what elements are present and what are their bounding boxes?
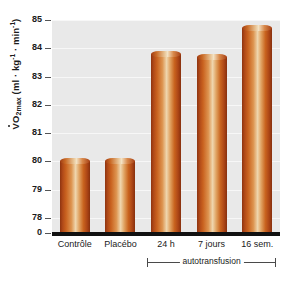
bar-cap [105,158,135,164]
y-tick-mark [45,161,51,162]
bar-cap [197,54,227,60]
y-tick-mark [45,218,51,219]
y-tick-label: 80 [0,156,42,165]
y-tick-mark-origin [45,233,51,234]
y-tick-mark [45,77,51,78]
bar [242,28,272,232]
x-axis-line [52,232,280,236]
bar-series [52,20,280,232]
y-tick-label: 84 [0,43,42,52]
x-axis-label: Placébo [98,239,144,249]
y-tick-label: 85 [0,15,42,24]
x-axis-label: Contrôle [52,239,98,249]
y-axis-title: VO2max (ml · kg-1 · min-1) [9,0,25,169]
y-tick-mark [45,133,51,134]
y-tick-label: 83 [0,72,42,81]
bracket-right-tick [275,258,276,267]
bar-cap [242,25,272,31]
y-tick-label: 79 [0,185,42,194]
chart-figure: VO2max (ml · kg-1 · min-1) 8584838281807… [0,0,292,283]
y-tick-label: 82 [0,100,42,109]
y-tick-mark [45,20,51,21]
y-tick-mark [45,105,51,106]
y-tick-label: 81 [0,128,42,137]
y-tick-label: 78 [0,213,42,222]
y-tick-mark [45,48,51,49]
bracket-label: autotransfusion [180,256,244,266]
y-axis-symbol-o: O [10,115,21,123]
bar [151,54,181,232]
autotransfusion-bracket: autotransfusion [147,257,276,267]
x-axis-label: 16 sem. [234,239,280,249]
bar [197,57,227,232]
x-axis-label: 24 h [143,239,189,249]
bar [60,161,90,232]
y-tick-mark [45,190,51,191]
x-axis-label: 7 jours [189,239,235,249]
plot-area [52,20,280,232]
y-axis-origin-label: 0 [0,228,42,237]
bar-cap [60,158,90,164]
bar-cap [151,51,181,57]
y-axis-unit-exp-1: -1 [9,54,16,60]
bar [105,161,135,232]
